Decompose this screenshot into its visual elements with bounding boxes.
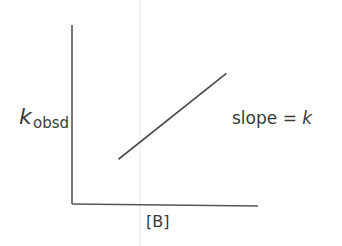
slope-annotation-text: slope = bbox=[232, 108, 302, 128]
x-axis bbox=[72, 204, 258, 206]
slope-annotation-k: k bbox=[302, 108, 313, 128]
y-axis-label-main: k bbox=[19, 104, 33, 129]
y-axis-label-subscript: obsd bbox=[33, 114, 69, 132]
data-line bbox=[119, 73, 227, 159]
rate-plot: k obsd [B] slope = k bbox=[0, 0, 342, 246]
x-axis-label: [B] bbox=[146, 212, 169, 231]
slope-annotation: slope = k bbox=[232, 108, 313, 128]
